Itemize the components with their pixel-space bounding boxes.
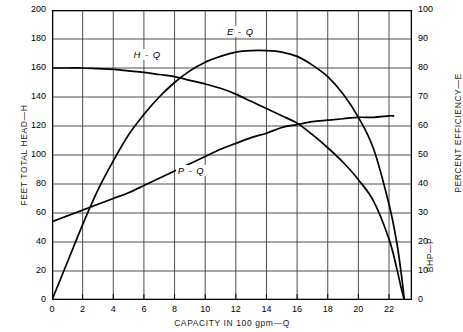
y-tick-left: 0 (18, 294, 46, 304)
x-tick: 2 (71, 304, 95, 314)
y-axis-label-right-bhp: BHP—P (425, 210, 435, 300)
x-tick: 22 (377, 304, 401, 314)
x-tick: 12 (224, 304, 248, 314)
plot-area: H - QE - QP - Q (52, 10, 412, 300)
y-tick-right: 10 (418, 265, 446, 275)
curve-pq (52, 116, 394, 222)
y-tick-left: 160 (18, 62, 46, 72)
y-axis-label-right-efficiency: PERCENT EFFICIENCY—E (453, 53, 463, 213)
x-tick: 4 (101, 304, 125, 314)
y-tick-right: 60 (418, 120, 446, 130)
y-tick-left: 20 (18, 265, 46, 275)
x-tick: 18 (316, 304, 340, 314)
x-tick: 10 (193, 304, 217, 314)
y-tick-left: 80 (18, 178, 46, 188)
plot-svg (52, 10, 412, 300)
x-tick: 8 (163, 304, 187, 314)
y-tick-right: 30 (418, 207, 446, 217)
y-tick-left: 40 (18, 236, 46, 246)
y-tick-left: 140 (18, 91, 46, 101)
y-tick-right: 80 (418, 62, 446, 72)
y-tick-right: 90 (418, 33, 446, 43)
y-tick-left: 100 (18, 149, 46, 159)
x-tick: 6 (132, 304, 156, 314)
y-tick-right: 40 (418, 178, 446, 188)
y-tick-right: 20 (418, 236, 446, 246)
y-tick-right: 0 (418, 294, 446, 304)
curve-label-pq: P - Q (176, 165, 207, 176)
y-tick-right: 50 (418, 149, 446, 159)
x-tick: 16 (285, 304, 309, 314)
x-tick: 20 (346, 304, 370, 314)
y-tick-right: 70 (418, 91, 446, 101)
curve-label-eq: E - Q (225, 26, 256, 37)
curve-label-hq: H - Q (131, 49, 163, 60)
y-tick-left: 60 (18, 207, 46, 217)
y-tick-left: 200 (18, 4, 46, 14)
x-tick: 14 (254, 304, 278, 314)
y-tick-left: 180 (18, 33, 46, 43)
y-tick-left: 120 (18, 120, 46, 130)
x-axis-label: CAPACITY IN 100 gpm—Q (52, 318, 412, 328)
x-tick: 0 (40, 304, 64, 314)
curve-lines (52, 50, 404, 300)
curve-eq (52, 50, 404, 300)
y-tick-right: 100 (418, 4, 446, 14)
